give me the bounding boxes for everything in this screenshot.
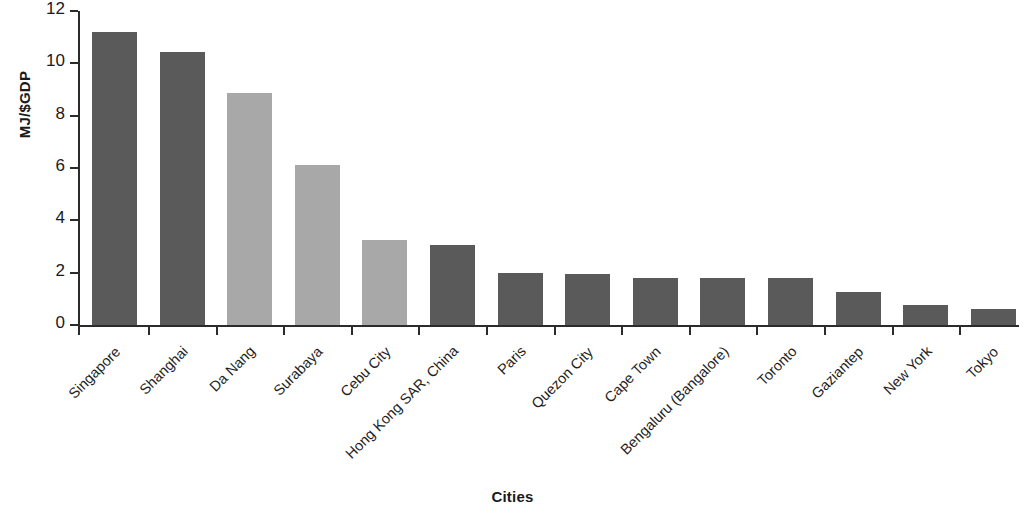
y-axis-tick: 2 bbox=[70, 272, 78, 274]
x-axis-tick bbox=[554, 326, 556, 335]
y-axis-tick-label: 2 bbox=[25, 261, 65, 281]
bar bbox=[227, 93, 272, 325]
x-axis-tick bbox=[216, 326, 218, 335]
x-axis-category-label: Toronto bbox=[754, 343, 800, 389]
x-axis-tick bbox=[959, 326, 961, 335]
x-axis-tick bbox=[892, 326, 894, 335]
y-axis-tick-label: 6 bbox=[25, 156, 65, 176]
x-axis-tick bbox=[756, 326, 758, 335]
bar bbox=[430, 245, 475, 325]
y-axis-tick: 8 bbox=[70, 115, 78, 117]
x-axis-tick bbox=[689, 326, 691, 335]
x-axis-title: Cities bbox=[0, 488, 1025, 505]
x-axis-category-label: Da Nang bbox=[207, 343, 259, 395]
y-axis-tick-label: 12 bbox=[25, 0, 65, 19]
y-axis-tick-label: 4 bbox=[25, 208, 65, 228]
y-axis-tick: 6 bbox=[70, 167, 78, 169]
bar bbox=[92, 32, 137, 325]
bar bbox=[700, 278, 745, 325]
x-axis-category-label: Tokyo bbox=[964, 343, 1002, 381]
y-axis-tick-label: 8 bbox=[25, 104, 65, 124]
bar bbox=[362, 240, 407, 325]
x-axis-tick bbox=[486, 326, 488, 335]
y-axis-tick: 4 bbox=[70, 219, 78, 221]
bar bbox=[971, 309, 1016, 325]
x-axis-category-label: Paris bbox=[494, 343, 529, 378]
x-axis-tick bbox=[148, 326, 150, 335]
bar bbox=[768, 278, 813, 325]
x-axis-tick bbox=[621, 326, 623, 335]
bar bbox=[903, 305, 948, 325]
y-axis-tick-label: 10 bbox=[25, 51, 65, 71]
x-axis-category-label: Surabaya bbox=[271, 343, 326, 398]
y-axis-tick: 12 bbox=[70, 10, 78, 12]
x-axis-tick bbox=[283, 326, 285, 335]
x-axis-category-label: Cape Town bbox=[602, 343, 664, 405]
bar bbox=[498, 273, 543, 325]
x-axis-category-label: New York bbox=[880, 343, 935, 398]
x-axis-category-label: Cebu City bbox=[337, 344, 393, 400]
bar bbox=[160, 52, 205, 325]
x-axis-tick bbox=[418, 326, 420, 335]
x-axis-category-label: Hong Kong SAR, China bbox=[342, 343, 461, 462]
plot-area: 024681012SingaporeShanghaiDa NangSurabay… bbox=[78, 11, 1019, 325]
bar bbox=[565, 274, 610, 325]
y-axis-tick: 10 bbox=[70, 62, 78, 64]
bar bbox=[295, 165, 340, 325]
bar bbox=[633, 278, 678, 325]
x-axis-category-label: Quezon City bbox=[528, 343, 596, 411]
x-axis-category-label: Gaziantep bbox=[809, 343, 867, 401]
x-axis-tick bbox=[351, 326, 353, 335]
x-axis-line bbox=[78, 325, 1019, 327]
x-axis-category-label: Singapore bbox=[65, 343, 123, 401]
y-axis-line bbox=[78, 11, 80, 326]
bar-chart: MJ/$GDP 024681012SingaporeShanghaiDa Nan… bbox=[0, 0, 1025, 520]
y-axis-tick: 0 bbox=[70, 324, 78, 326]
x-axis-category-label: Shanghai bbox=[136, 343, 191, 398]
x-axis-tick bbox=[78, 326, 80, 335]
bar bbox=[836, 292, 881, 325]
y-axis-tick-label: 0 bbox=[25, 313, 65, 333]
x-axis-tick bbox=[824, 326, 826, 335]
